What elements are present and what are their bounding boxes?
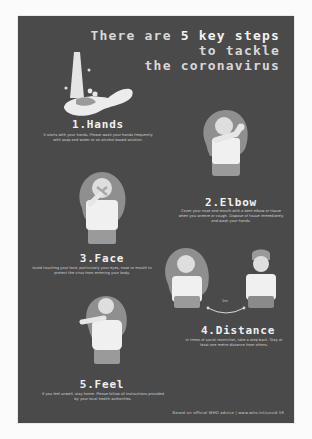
step-4-title: 4.Distance	[198, 324, 278, 337]
step-5-title: 5.Feel	[72, 378, 132, 391]
infographic-poster: There are 5 key steps to tackle the coro…	[18, 16, 294, 423]
title-prefix: There are	[90, 28, 180, 43]
step-3-title: 3.Face	[72, 252, 132, 265]
two-people-distance-icon	[158, 244, 288, 314]
person-sneezing-into-elbow-icon	[196, 106, 256, 176]
title-highlight: 5 key steps	[181, 28, 280, 43]
step-2-title: 2.Elbow	[196, 196, 266, 209]
step-5-description: If you feel unwell, stay home. Please fo…	[40, 392, 166, 402]
person-feeling-unwell-icon	[78, 296, 134, 364]
step-2-description: Cover your nose and mouth with a bent el…	[176, 209, 286, 224]
step-3-description: Avoid touching your face, particularly y…	[32, 266, 152, 276]
hand-washing-icon	[46, 46, 136, 121]
footer-source: Based on official WHO advice | www.who.i…	[173, 410, 284, 415]
person-covering-face-icon	[70, 168, 134, 244]
distance-label: 1m	[222, 299, 228, 303]
step-1-title: 1.Hands	[68, 118, 128, 131]
step-4-description: In times of social restriction, take a s…	[182, 338, 286, 348]
step-1-description: It starts with your hands. Please wash y…	[42, 133, 154, 143]
